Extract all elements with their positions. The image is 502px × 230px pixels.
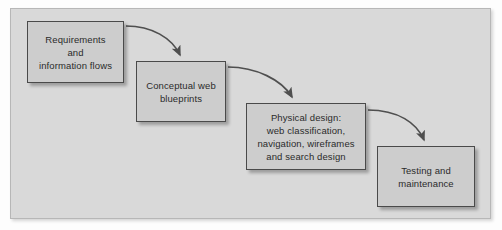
node-requirements: Requirements and information flows [27, 21, 124, 83]
node-testing-and-maintenance: Testing and maintenance [377, 146, 475, 207]
diagram-root: Requirements and information flows Conce… [0, 0, 502, 230]
node-physical-design: Physical design: web classification, nav… [246, 103, 366, 170]
node-requirements-label: Requirements and information flows [36, 33, 115, 72]
node-physical-design-label: Physical design: web classification, nav… [254, 111, 357, 163]
node-conceptual-web-blueprints-label: Conceptual web blueprints [143, 79, 219, 105]
node-testing-and-maintenance-label: Testing and maintenance [395, 164, 457, 190]
node-conceptual-web-blueprints: Conceptual web blueprints [136, 61, 226, 122]
